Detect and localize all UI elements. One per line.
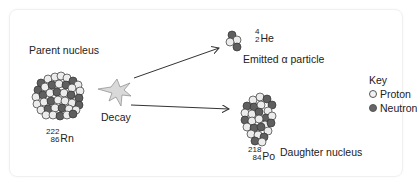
alpha-atomic-number: 2: [255, 36, 259, 44]
parent-atomic-number: 86: [46, 136, 59, 144]
legend-title: Key: [369, 73, 417, 87]
neutron-swatch-icon: [369, 104, 377, 112]
daughter-nucleus-label: Daughter nucleus: [280, 146, 362, 158]
parent-nucleus-icon: [32, 72, 84, 120]
emitted-alpha-label: Emitted α particle: [243, 53, 324, 65]
parent-isotope: 22286Rn: [46, 128, 74, 144]
legend-proton-label: Proton: [380, 88, 411, 100]
decay-label: Decay: [101, 111, 131, 123]
legend-item-proton: Proton: [369, 87, 417, 101]
legend-item-neutron: Neutron: [369, 101, 417, 115]
daughter-atomic-number: 84: [248, 154, 261, 162]
decay-burst-icon: [98, 79, 131, 106]
parent-nucleus-label: Parent nucleus: [29, 44, 99, 56]
legend-neutron-label: Neutron: [380, 102, 417, 114]
arrow-to-daughter: [131, 105, 229, 109]
daughter-isotope: 21884Po: [248, 146, 275, 162]
proton-swatch-icon: [369, 90, 377, 98]
parent-symbol: Rn: [60, 133, 73, 144]
alpha-symbol: He: [260, 33, 273, 44]
arrow-to-alpha: [134, 48, 219, 78]
alpha-isotope: 42He: [255, 28, 274, 44]
legend: Key Proton Neutron: [369, 73, 417, 115]
alpha-particle-icon: [226, 31, 241, 51]
daughter-nucleus-icon: [241, 93, 276, 146]
daughter-symbol: Po: [262, 151, 275, 162]
